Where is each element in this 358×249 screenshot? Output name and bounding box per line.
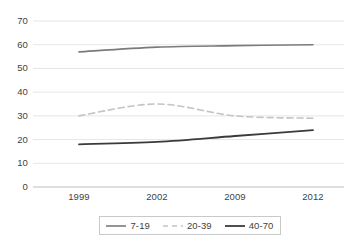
x-tick-label: 1999	[59, 192, 99, 202]
legend-item-20-39[interactable]: 20-39	[163, 221, 212, 231]
legend-label: 20-39	[187, 221, 212, 231]
y-tick-label: 0	[2, 182, 28, 192]
chart-canvas	[0, 0, 358, 249]
gridlines	[33, 21, 344, 163]
x-tick-label: 2002	[137, 192, 177, 202]
x-tick-label: 2012	[293, 192, 333, 202]
y-tick-label: 50	[2, 63, 28, 73]
y-tick-label: 40	[2, 87, 28, 97]
y-tick-label: 60	[2, 40, 28, 50]
y-tick-label: 30	[2, 111, 28, 121]
legend-swatch-icon	[163, 222, 183, 230]
data-series-group	[79, 45, 313, 145]
legend-item-40-70[interactable]: 40-70	[225, 221, 274, 231]
legend-swatch-icon	[106, 222, 126, 230]
legend-label: 7-19	[130, 221, 149, 231]
x-tick-label: 2009	[215, 192, 255, 202]
legend-label: 40-70	[249, 221, 274, 231]
y-tick-label: 20	[2, 135, 28, 145]
series-line-40-70	[79, 130, 313, 144]
y-tick-label: 10	[2, 158, 28, 168]
legend-item-7-19[interactable]: 7-19	[106, 221, 149, 231]
y-tick-label: 70	[2, 16, 28, 26]
series-line-7-19	[79, 45, 313, 52]
line-chart: 706050403020100 1999200220092012 7-1920-…	[0, 0, 358, 249]
legend-swatch-icon	[225, 222, 245, 230]
chart-legend: 7-1920-3940-70	[99, 216, 281, 235]
